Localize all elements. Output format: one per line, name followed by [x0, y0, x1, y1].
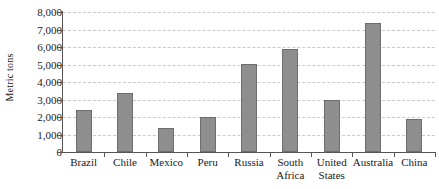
x-axis-tick-mark — [228, 152, 229, 157]
y-axis-tick-label: 3,000 — [16, 94, 62, 105]
y-axis-tick-mark — [57, 82, 62, 83]
y-axis-tick-mark — [57, 135, 62, 136]
bars-layer — [63, 12, 435, 152]
x-axis-tick-label: Chile — [104, 156, 145, 169]
bar — [365, 23, 381, 153]
y-axis-tick-label: 6,000 — [16, 42, 62, 53]
x-axis-tick-mark — [270, 152, 271, 157]
y-axis-tick-label: 4,000 — [16, 77, 62, 88]
x-axis-tick-mark — [435, 152, 436, 157]
y-axis-tick-mark — [57, 117, 62, 118]
x-axis-tick-label: Brazil — [63, 156, 104, 169]
bar — [406, 119, 422, 152]
x-axis-tick-label: Peru — [187, 156, 228, 169]
bar — [117, 93, 133, 153]
x-axis-tick-label: Australia — [352, 156, 393, 169]
x-axis-tick-label: Russia — [228, 156, 269, 169]
bar — [241, 64, 257, 152]
y-axis-tick-label: 5,000 — [16, 59, 62, 70]
bar — [76, 110, 92, 152]
x-axis-tick-mark — [311, 152, 312, 157]
x-axis-tick-mark — [104, 152, 105, 157]
bar — [158, 128, 174, 152]
y-axis-tick-label: 1,000 — [16, 129, 62, 140]
y-axis-tick-mark — [57, 65, 62, 66]
bar — [282, 49, 298, 152]
y-axis-tick-mark — [57, 100, 62, 101]
y-axis-tick-mark — [57, 152, 62, 153]
x-axis-tick-label: United States — [311, 156, 352, 182]
x-axis-tick-labels: BrazilChileMexicoPeruRussiaSouth AfricaU… — [63, 156, 435, 189]
x-axis-tick-mark — [352, 152, 353, 157]
y-axis-tick-labels: 01,0002,0003,0004,0005,0006,0007,0008,00… — [16, 0, 62, 160]
x-axis-tick-mark — [394, 152, 395, 157]
y-axis-tick-mark — [57, 47, 62, 48]
y-axis-tick-label: 8,000 — [16, 7, 62, 18]
bar — [324, 100, 340, 152]
x-axis-line — [62, 152, 436, 153]
x-axis-tick-label: China — [394, 156, 435, 169]
bar-chart-figure: Metric tons 01,0002,0003,0004,0005,0006,… — [0, 0, 439, 189]
x-axis-tick-label: Mexico — [146, 156, 187, 169]
bar — [200, 117, 216, 152]
y-axis-tick-label: 7,000 — [16, 24, 62, 35]
x-axis-tick-label: South Africa — [270, 156, 311, 182]
y-axis-tick-label: 2,000 — [16, 112, 62, 123]
x-axis-tick-mark — [146, 152, 147, 157]
y-axis-tick-mark — [57, 30, 62, 31]
y-axis-tick-label: 0 — [16, 147, 62, 158]
y-axis-title-label: Metric tons — [4, 53, 15, 101]
y-axis-tick-mark — [57, 12, 62, 13]
x-axis-tick-mark — [187, 152, 188, 157]
